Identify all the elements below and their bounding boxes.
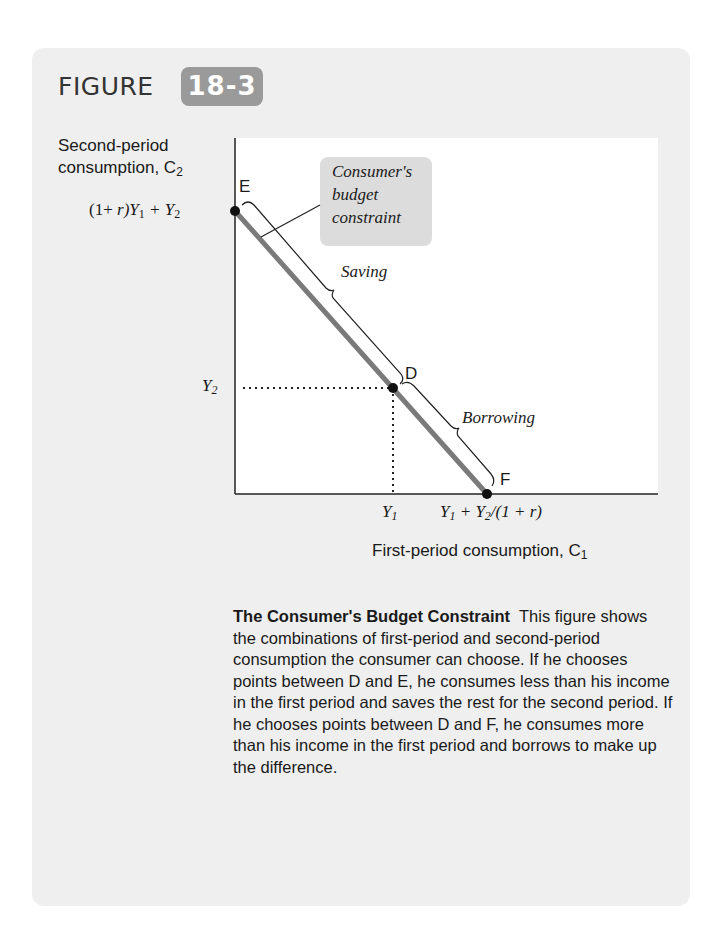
point-d-label: D bbox=[405, 364, 417, 384]
callout-text: Consumer's budget constraint bbox=[332, 160, 412, 229]
callout-leader bbox=[261, 205, 320, 237]
caption-title: The Consumer's Budget Constraint bbox=[233, 607, 510, 625]
y-tick-top: (1+ r)Y1 + Y2 bbox=[89, 200, 180, 222]
saving-label: Saving bbox=[341, 262, 387, 282]
borrowing-label: Borrowing bbox=[462, 408, 535, 428]
x-tick-max: Y1 + Y2/(1 + r) bbox=[440, 502, 542, 524]
point-f-marker bbox=[482, 489, 492, 499]
point-d-marker bbox=[388, 383, 398, 393]
y-axis-label: Second-period consumption, C2 bbox=[58, 135, 183, 183]
y-tick-y2: Y2 bbox=[202, 376, 217, 398]
point-f-label: F bbox=[500, 470, 510, 490]
x-axis-label: First-period consumption, C1 bbox=[372, 541, 587, 562]
point-e-marker bbox=[230, 206, 240, 216]
caption-body: This figure shows the combinations of fi… bbox=[233, 607, 672, 776]
figure-caption: The Consumer's Budget Constraint This fi… bbox=[233, 606, 673, 778]
budget-line bbox=[235, 211, 487, 494]
borrowing-brace bbox=[402, 382, 494, 486]
x-tick-y1: Y1 bbox=[382, 502, 397, 524]
point-e-label: E bbox=[239, 177, 250, 197]
saving-brace bbox=[242, 202, 403, 384]
